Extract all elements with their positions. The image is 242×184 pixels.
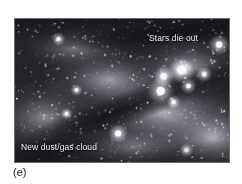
- nebula-image-canvas: [15, 19, 229, 162]
- figure-caption: (e): [13, 166, 26, 179]
- astronomy-photo: Stars die out New dust/gas cloud: [14, 18, 230, 163]
- figure-panel: Stars die out New dust/gas cloud (e): [0, 0, 242, 184]
